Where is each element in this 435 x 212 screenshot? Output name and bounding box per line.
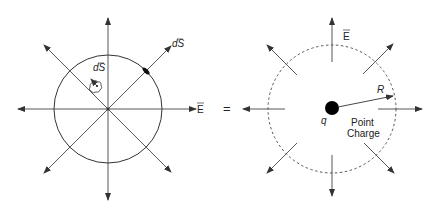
radius-vector — [338, 96, 393, 107]
right-figure: R q Point Charge E — [243, 18, 422, 196]
equals-sign: = — [223, 101, 231, 116]
left-figure: dS dS E — [18, 18, 204, 200]
R-label: R — [377, 84, 384, 95]
surface-element-inner-icon — [89, 81, 102, 93]
point-label: Point — [351, 117, 374, 128]
dS-outer-label: dS — [172, 38, 185, 49]
q-label: q — [321, 115, 327, 126]
gauss-law-diagram: dS dS E = R q Point Charge E — [0, 0, 435, 212]
center-point — [107, 108, 110, 111]
charge-label: Charge — [347, 128, 380, 139]
E-label-right: E — [343, 31, 350, 42]
E-label-left: E — [197, 104, 204, 115]
dS-inner-label: dS — [93, 62, 106, 73]
point-charge — [325, 101, 339, 115]
